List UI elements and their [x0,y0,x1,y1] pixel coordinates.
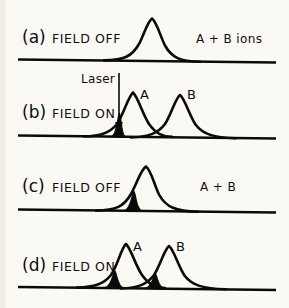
panel-a-baseline [18,60,276,63]
panel-b-peak-b-curve [131,95,236,138]
panel-a-trace [18,19,276,63]
panel-c-trace [18,167,276,213]
panel-b-laser-peak-filled [111,113,126,136]
panel-c-baseline [18,210,276,213]
trace-drawing [0,0,289,308]
panel-a-peak-curve [104,19,200,62]
panel-d-trace [18,244,276,290]
panel-b-trace [18,73,276,139]
figure-panel-stack: (a) FIELD OFF A + B ions (b) FIELD ON La… [0,0,289,308]
panel-c-peak-curve [96,167,198,212]
